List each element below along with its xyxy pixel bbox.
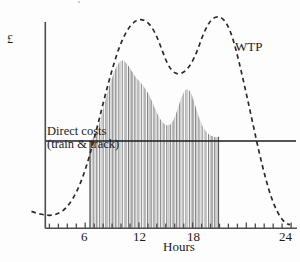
y-axis-label: £ xyxy=(7,33,13,46)
wtp-curve-label: WTP xyxy=(235,40,262,54)
x-tick-label-18: 18 xyxy=(187,230,200,244)
direct-costs-annotation: Direct costs (train & track) xyxy=(47,125,119,151)
chart-figure: £ Hours 6 12 18 24 WTP Direct costs (tra… xyxy=(0,0,300,262)
x-tick-label-24: 24 xyxy=(279,230,292,244)
x-tick-label-6: 6 xyxy=(81,230,88,244)
x-tick-label-12: 12 xyxy=(133,230,146,244)
direct-costs-annotation-line2: (train & track) xyxy=(47,138,119,151)
